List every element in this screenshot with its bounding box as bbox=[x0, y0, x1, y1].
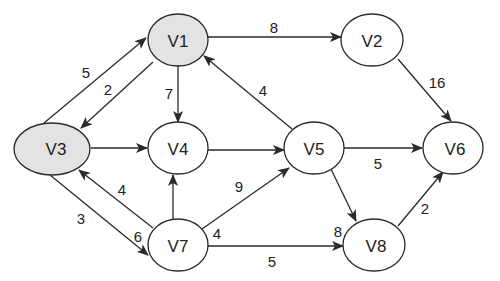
graph-diagram: 5 2 8 7 16 4 5 8 2 4 3 6 9 4 5 V1 V2 V3 … bbox=[0, 0, 500, 281]
edge-weight-v7-v3-6: 6 bbox=[134, 228, 142, 245]
edge-weight-v3-v1: 5 bbox=[82, 64, 90, 81]
node-v6: V6 bbox=[423, 122, 483, 174]
edge-weight-v1-v3: 2 bbox=[104, 81, 112, 98]
edge-v3-v1 bbox=[44, 38, 146, 123]
edge-v7-v3 bbox=[79, 170, 153, 228]
edge-weight-v7-v5: 9 bbox=[235, 178, 243, 195]
edge-weight-v7-v8-4: 4 bbox=[213, 225, 221, 242]
edge-v7-v5 bbox=[202, 168, 289, 229]
node-label-v2: V2 bbox=[362, 32, 383, 51]
edge-v5-v1 bbox=[204, 56, 292, 129]
edge-weight-v7-v8: 5 bbox=[268, 253, 276, 270]
nodes: V1 V2 V3 V4 V5 V6 V7 V8 bbox=[14, 14, 483, 271]
node-v5: V5 bbox=[284, 122, 344, 174]
edge-weight-v5-v6: 5 bbox=[374, 155, 382, 172]
edge-weight-v2-v6: 16 bbox=[429, 74, 446, 91]
node-v2: V2 bbox=[341, 14, 403, 66]
edge-weight-v5-v8: 8 bbox=[334, 223, 342, 240]
edge-v5-v8 bbox=[331, 169, 356, 221]
node-label-v3: V3 bbox=[46, 140, 67, 159]
edge-v1-v3 bbox=[81, 62, 153, 128]
node-label-v8: V8 bbox=[366, 237, 387, 256]
edge-weight-v5-v1: 4 bbox=[259, 82, 267, 99]
node-label-v7: V7 bbox=[168, 237, 189, 256]
edge-weight-v3-v7: 3 bbox=[77, 210, 85, 227]
node-v1: V1 bbox=[148, 14, 208, 66]
node-label-v5: V5 bbox=[304, 140, 325, 159]
edge-weight-v7-v3: 4 bbox=[118, 181, 126, 198]
edge-weight-v1-v2: 8 bbox=[270, 19, 278, 36]
edge-weight-v1-v4: 7 bbox=[165, 85, 173, 102]
node-v3: V3 bbox=[14, 123, 90, 175]
node-label-v6: V6 bbox=[445, 140, 466, 159]
node-v8: V8 bbox=[343, 219, 405, 271]
node-label-v4: V4 bbox=[168, 140, 189, 159]
node-label-v1: V1 bbox=[168, 32, 189, 51]
edge-weight-v8-v6: 2 bbox=[421, 200, 429, 217]
node-v7: V7 bbox=[148, 219, 208, 271]
node-v4: V4 bbox=[148, 122, 208, 174]
